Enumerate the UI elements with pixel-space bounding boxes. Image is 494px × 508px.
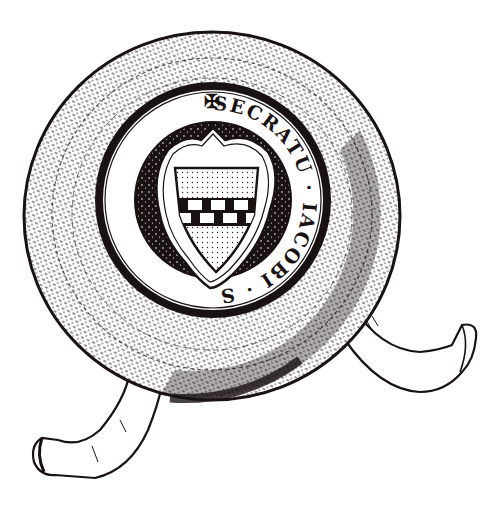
- fess-chequy: [170, 198, 265, 226]
- seal-illustration: SECRATU · IACOBI · SCABINI · FILII · SCO…: [0, 0, 494, 508]
- cross-icon: ✠: [204, 90, 222, 112]
